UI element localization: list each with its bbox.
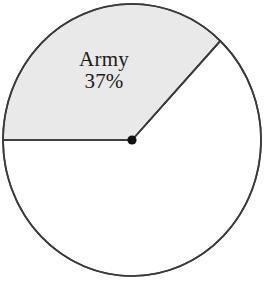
pie-center-dot [127, 135, 136, 144]
pie-chart-canvas [0, 0, 271, 284]
pie-slice-label-army-value: 37% [36, 70, 172, 92]
pie-chart-figure: Army 37% [0, 0, 271, 284]
pie-slice-label-army: Army 37% [36, 48, 172, 93]
pie-slice-label-army-name: Army [36, 48, 172, 70]
